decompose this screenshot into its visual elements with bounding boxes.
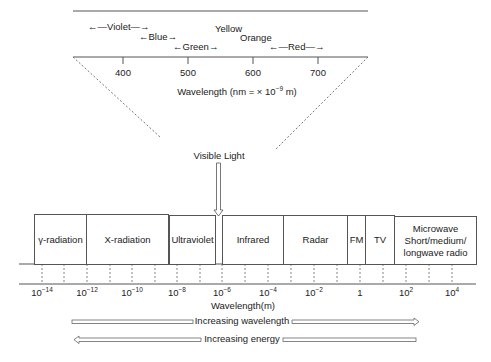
band-ultraviolet: Ultraviolet xyxy=(169,215,216,265)
wavelength-tick-label: 10−12 xyxy=(76,287,98,298)
wavelength-tick-label: 10−8 xyxy=(168,287,186,298)
visible-tick-label: 500 xyxy=(180,67,196,78)
visible-light-arrow-icon xyxy=(214,163,223,216)
wavelength-tick-label: 10−2 xyxy=(305,287,323,298)
visible-tick-label: 400 xyxy=(115,67,131,78)
wavelength-tick-label: 104 xyxy=(445,287,459,298)
color-label-red: ←—Red—→ xyxy=(269,41,324,52)
band-tv: TV xyxy=(365,215,395,265)
increasing-wavelength-label: Increasing wavelength xyxy=(195,315,290,326)
dashed-ticks xyxy=(42,264,452,284)
band-infrared: Infrared xyxy=(222,215,284,265)
visible-light-label: Visible Light xyxy=(193,150,244,161)
color-label-yellow: Yellow xyxy=(215,23,242,34)
wavelength-tick-label: 10−10 xyxy=(121,287,143,298)
band-x-radiation: X-radiation xyxy=(86,214,169,265)
energy-arrow-left-icon xyxy=(74,336,201,344)
wavelength-arrow-right-icon xyxy=(292,318,419,326)
band-microwave-line1: Microwave xyxy=(413,223,458,235)
visible-tick-label: 600 xyxy=(245,67,261,78)
color-label-orange: Orange xyxy=(240,32,272,43)
band-gamma-radiation: γ-radiation xyxy=(34,214,87,265)
band-microwave-radio: Microwave Short/medium/ longwave radio xyxy=(394,216,477,265)
band-microwave-line3: longwave radio xyxy=(404,247,468,259)
color-label-green: ←Green→ xyxy=(173,41,218,52)
wavelength-axis-label: Wavelength(m) xyxy=(211,300,275,311)
increasing-energy-label: Increasing energy xyxy=(204,333,280,344)
band-microwave-line2: Short/medium/ xyxy=(405,235,467,247)
wavelength-bar-left xyxy=(72,320,193,324)
wavelength-tick-label: 10−14 xyxy=(31,287,53,298)
band-fm: FM xyxy=(347,215,366,265)
wavelength-tick-label: 1 xyxy=(357,287,362,298)
wavelength-tick-label: 102 xyxy=(399,287,413,298)
band-radar: Radar xyxy=(283,215,348,265)
energy-bar-right xyxy=(283,338,416,342)
visible-tick-label: 700 xyxy=(310,67,326,78)
wavelength-tick-label: 10−4 xyxy=(259,287,277,298)
visible-axis-label: Wavelength (nm = × 10−9 m) xyxy=(177,86,297,97)
color-label-blue: ←Blue→ xyxy=(139,31,177,42)
wavelength-tick-label: 10−6 xyxy=(213,287,231,298)
